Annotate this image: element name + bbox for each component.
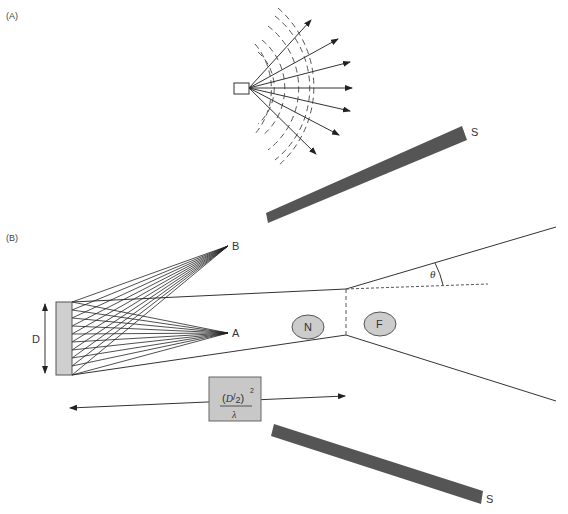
near-field-distance-arrow — [70, 396, 345, 408]
far-field-label: F — [376, 318, 383, 330]
surface-b-label: S — [486, 493, 493, 505]
aperture — [56, 302, 72, 375]
distance-formula-box: (D/2) 2 λ — [209, 377, 261, 421]
aperture-label: D — [32, 333, 40, 345]
diagram-canvas: (A) S (B) θ — [0, 0, 568, 514]
angle-reference-line — [346, 284, 488, 289]
svg-text:λ: λ — [231, 409, 237, 420]
beam-outline — [72, 227, 556, 401]
point-b-label: B — [232, 240, 239, 252]
surface-a-label: S — [471, 126, 478, 138]
surface-a — [266, 126, 467, 223]
panel-a-label: (A) — [6, 11, 18, 21]
panel-b-label: (B) — [6, 233, 18, 243]
angle-arc — [435, 263, 443, 285]
source-box — [234, 83, 249, 94]
surface-b — [271, 424, 483, 504]
point-a-label: A — [232, 327, 240, 339]
point-source-radiation — [234, 8, 352, 166]
angle-label: θ — [430, 268, 436, 280]
svg-text:2: 2 — [250, 387, 254, 394]
near-field-label: N — [304, 321, 312, 333]
